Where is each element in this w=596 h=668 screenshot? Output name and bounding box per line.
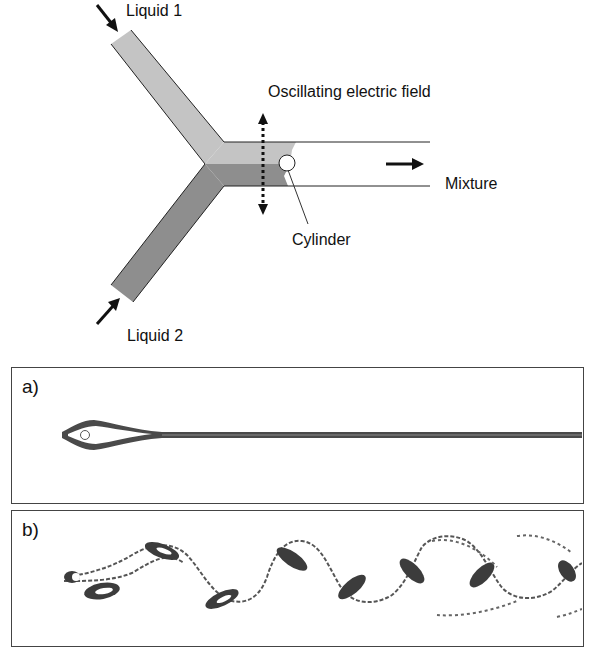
vortex-shedding-plot xyxy=(12,511,582,645)
liquid2-arrow-icon xyxy=(97,298,120,324)
microchannel-schematic xyxy=(0,0,596,360)
oscillating-field-label: Oscillating electric field xyxy=(268,84,431,100)
cylinder-icon xyxy=(279,155,295,171)
steady-wake-plot xyxy=(12,368,582,502)
mixture-arrow-icon xyxy=(386,158,424,170)
liquid1-inlet-arm xyxy=(111,30,224,164)
cylinder-leader-line xyxy=(288,170,308,224)
mixture-label: Mixture xyxy=(445,176,497,192)
cylinder-label: Cylinder xyxy=(292,232,351,248)
liquid2-inlet-arm xyxy=(111,164,224,302)
liquid2-label: Liquid 2 xyxy=(127,328,183,344)
panel-a: a) xyxy=(11,367,584,504)
liquid1-arrow-icon xyxy=(97,5,118,32)
panel-b: b) xyxy=(11,510,584,647)
liquid1-label: Liquid 1 xyxy=(126,3,182,19)
